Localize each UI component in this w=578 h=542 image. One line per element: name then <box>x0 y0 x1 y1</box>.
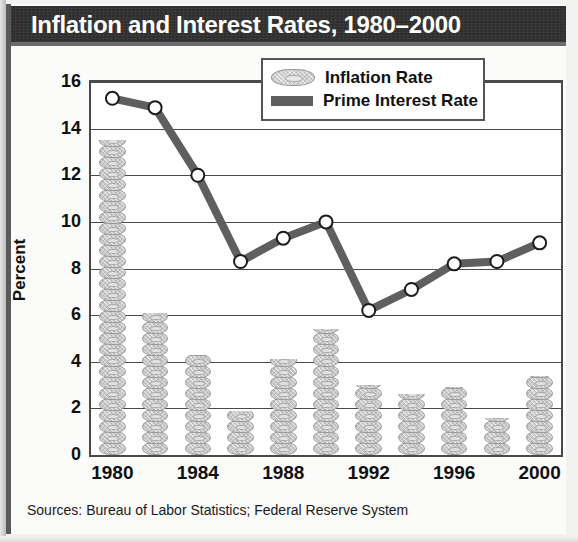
x-tick-label: 1988 <box>262 462 304 484</box>
x-tick-label: 1996 <box>433 462 475 484</box>
x-axis: 198019841988199219962000 <box>89 462 563 492</box>
data-point-marker <box>106 92 119 105</box>
source-note: Sources: Bureau of Labor Statistics; Fed… <box>27 502 408 518</box>
bill-icon <box>271 69 315 86</box>
x-tick-label: 1992 <box>348 462 390 484</box>
title-banner: Inflation and Interest Rates, 1980–2000 <box>11 6 566 46</box>
data-point-marker <box>533 236 546 249</box>
data-point-marker <box>448 257 461 270</box>
data-point-marker <box>490 255 503 268</box>
y-axis: Percent 0246810121416 <box>11 80 89 457</box>
line-swatch-icon <box>271 96 313 106</box>
y-tick-label: 10 <box>61 211 81 232</box>
y-tick-label: 14 <box>61 118 81 139</box>
data-point-marker <box>320 215 333 228</box>
y-tick-label: 4 <box>71 351 81 372</box>
y-axis-title: Percent <box>10 239 30 301</box>
data-point-marker <box>149 101 162 114</box>
line-series-prime-interest-rate <box>91 82 561 455</box>
chart-legend: Inflation Rate Prime Interest Rate <box>261 58 485 121</box>
legend-item-prime-interest-rate: Prime Interest Rate <box>271 89 475 112</box>
page-title: Inflation and Interest Rates, 1980–2000 <box>31 11 461 39</box>
plot-area <box>89 80 563 457</box>
data-point-marker <box>405 283 418 296</box>
y-tick-label: 12 <box>61 164 81 185</box>
gridline <box>91 455 561 456</box>
data-point-marker <box>277 232 290 245</box>
y-tick-label: 0 <box>71 444 81 465</box>
x-tick-label: 2000 <box>518 462 560 484</box>
line-path <box>112 98 539 310</box>
bottom-edge-shadow <box>0 536 578 542</box>
chart-card: Percent 0246810121416 198019841988199219… <box>11 50 566 530</box>
data-point-marker <box>234 255 247 268</box>
chart-figure: Inflation and Interest Rates, 1980–2000 … <box>0 0 578 542</box>
legend-item-inflation-rate: Inflation Rate <box>271 66 475 89</box>
y-tick-label: 2 <box>71 397 81 418</box>
data-point-marker <box>362 304 375 317</box>
y-tick-label: 6 <box>71 304 81 325</box>
legend-label-inflation-rate: Inflation Rate <box>325 68 433 88</box>
plot-wrapper: Percent 0246810121416 198019841988199219… <box>11 50 566 530</box>
legend-label-prime-interest-rate: Prime Interest Rate <box>323 91 478 111</box>
y-tick-label: 16 <box>61 71 81 92</box>
x-tick-label: 1984 <box>177 462 219 484</box>
data-point-marker <box>191 169 204 182</box>
x-tick-label: 1980 <box>91 462 133 484</box>
y-tick-label: 8 <box>71 258 81 279</box>
